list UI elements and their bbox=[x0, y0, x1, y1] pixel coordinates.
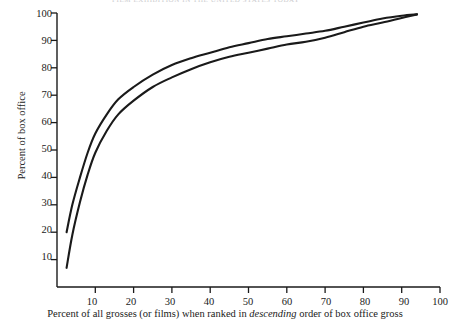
x-axis-title-before: Percent of all grosses (or films) when r… bbox=[47, 308, 249, 319]
y-axis-ticks bbox=[51, 13, 57, 260]
x-axis-title-italic: descending bbox=[249, 308, 296, 319]
data-curves bbox=[67, 14, 417, 267]
plot-area bbox=[0, 0, 450, 329]
x-axis-title: Percent of all grosses (or films) when r… bbox=[0, 308, 450, 319]
x-axis-ticks bbox=[95, 287, 440, 293]
figure-container: FILM EXHIBITION IN THE UNITED STATES TOD… bbox=[0, 0, 450, 329]
x-axis-title-after: order of box office gross bbox=[297, 308, 403, 319]
curve-lower-curve bbox=[67, 14, 417, 267]
axis-lines bbox=[57, 13, 440, 287]
curve-upper-curve bbox=[67, 14, 417, 232]
